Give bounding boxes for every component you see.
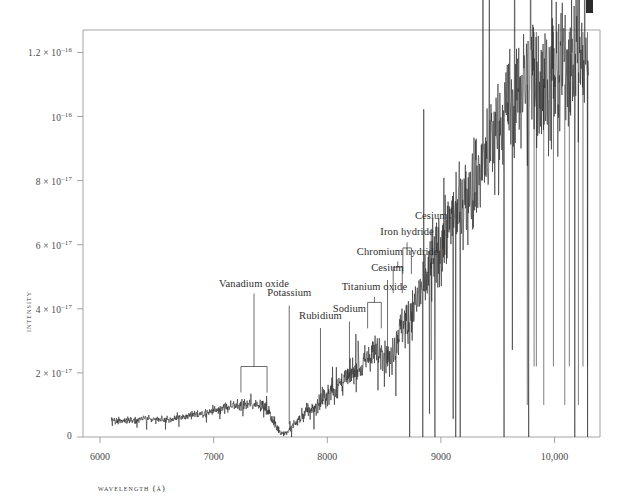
spectrum-trace <box>111 0 588 437</box>
x-tick-label: 8000 <box>287 451 367 462</box>
annotation-label-cesium-right: Cesium <box>415 210 448 221</box>
spectrum-figure: 1.2 × 10–1610–168 × 10–176 × 10–174 × 10… <box>0 0 628 504</box>
y-tick-label: 2 × 10–17 <box>0 367 72 379</box>
y-tick-label: 1.2 × 10–16 <box>0 46 72 58</box>
annotation-label-sodium: Sodium <box>333 303 366 314</box>
x-axis-title: WAVELENGTH (Å) <box>98 484 166 493</box>
plot-canvas <box>0 0 628 504</box>
x-tick-label: 7000 <box>174 451 254 462</box>
annotation-label-titanium-oxide: Titanium oxide <box>342 281 407 292</box>
y-tick-label: 0 <box>0 431 72 441</box>
y-tick-label: 6 × 10–17 <box>0 239 72 251</box>
x-tick-label: 10,000 <box>515 451 595 462</box>
y-tick-label: 10–16 <box>0 111 72 123</box>
y-tick-label: 8 × 10–17 <box>0 175 72 187</box>
x-tick-label: 6000 <box>60 451 140 462</box>
annotation-label-chromium-hydride: Chromium hydride <box>357 246 439 257</box>
y-axis-title: INTENSITY <box>24 291 33 332</box>
annotation-label-cesium-left: Cesium <box>371 262 404 273</box>
y-tick-label: 4 × 10–17 <box>0 303 72 315</box>
x-tick-label: 9000 <box>401 451 481 462</box>
annotation-markers <box>241 229 431 424</box>
annotation-label-potassium: Potassium <box>267 287 311 298</box>
annotation-label-iron-hydride: Iron hydride <box>380 226 433 237</box>
